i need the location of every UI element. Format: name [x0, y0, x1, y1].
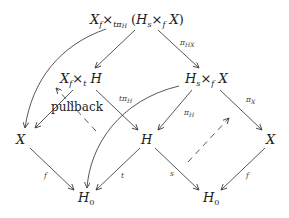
label-pi-x: πX [245, 95, 256, 105]
label-s: s [170, 169, 174, 178]
arrow-pi-x [220, 90, 262, 130]
label-pi-h: πH [183, 108, 195, 118]
arrow-t [96, 148, 140, 190]
node-x-left: X [15, 132, 26, 147]
node-right-fiber-product: Hs×f X [184, 71, 228, 88]
arrow-top-to-left-mid [95, 30, 135, 68]
arrow-pi-hx [158, 30, 199, 68]
node-h-center: H [140, 132, 153, 147]
arrow-s [155, 148, 199, 190]
arrow-f-left [30, 148, 74, 190]
label-t: t [121, 171, 125, 180]
label-f-right: f [245, 171, 250, 180]
commutative-diagram: Xf×tπH (Hs×f X) Xf×t H Hs×f X X H X H0 H… [0, 0, 289, 218]
node-h0-left: H0 [77, 190, 94, 207]
label-t-pi-h: tπH [119, 94, 133, 104]
node-h0-right: H0 [202, 190, 219, 207]
node-top-fiber-product: Xf×tπH (Hs×f X) [89, 12, 184, 29]
label-f-left: f [43, 171, 48, 180]
pullback-annotation: pullback [51, 100, 104, 114]
arrow-f-right [221, 148, 265, 190]
label-pi-hx: πHX [179, 38, 195, 48]
node-left-fiber-product: Xf×t H [59, 71, 102, 88]
node-x-right: X [265, 132, 276, 147]
dashed-arrow-right [188, 118, 229, 162]
